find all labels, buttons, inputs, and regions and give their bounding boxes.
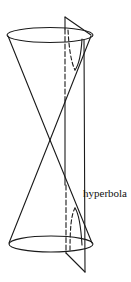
upper-cone-rim xyxy=(7,28,93,43)
plane-bottom-edge xyxy=(66,253,85,272)
hyperbola-lower-visible xyxy=(75,208,82,245)
cutting-plane xyxy=(65,17,91,272)
hyperbola-upper-visible xyxy=(75,39,82,70)
upper-nappe xyxy=(7,28,93,141)
hyperbola-label: hyperbola xyxy=(83,188,127,199)
diagram-canvas xyxy=(0,0,131,282)
lower-cone-rim xyxy=(9,236,93,252)
upper-cone-left-generator xyxy=(8,36,50,140)
plane-top-edge xyxy=(65,17,91,35)
lower-cone-left-generator xyxy=(9,140,50,243)
hyperbola-conic-section-diagram: hyperbola xyxy=(0,0,131,282)
hyperbola-lower-hidden xyxy=(70,208,75,250)
plane-right-edge xyxy=(84,40,85,272)
lower-nappe xyxy=(9,140,93,252)
hyperbola-upper-hidden xyxy=(68,30,75,70)
